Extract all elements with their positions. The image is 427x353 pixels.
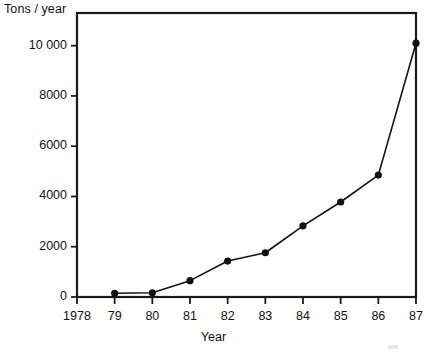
x-tick-label: 87 bbox=[390, 309, 427, 323]
data-point bbox=[149, 289, 156, 296]
data-point bbox=[375, 172, 382, 179]
frame-rect bbox=[77, 13, 416, 297]
data-point bbox=[111, 290, 118, 297]
scan-artifact bbox=[388, 345, 398, 349]
y-tick-label: 6000 bbox=[0, 138, 67, 152]
y-tick-label: 10 000 bbox=[0, 38, 67, 52]
data-point bbox=[262, 249, 269, 256]
y-tick-label: 2000 bbox=[0, 239, 67, 253]
line-chart: Tons / year Year 0200040006000800010 000… bbox=[0, 0, 427, 353]
data-point bbox=[412, 40, 419, 47]
data-point bbox=[186, 277, 193, 284]
y-tick-label: 0 bbox=[0, 289, 67, 303]
plot-frame bbox=[77, 13, 416, 297]
y-tick-label: 4000 bbox=[0, 188, 67, 202]
data-point bbox=[299, 222, 306, 229]
data-point bbox=[337, 198, 344, 205]
y-tick-label: 8000 bbox=[0, 88, 67, 102]
data-point bbox=[224, 257, 231, 264]
